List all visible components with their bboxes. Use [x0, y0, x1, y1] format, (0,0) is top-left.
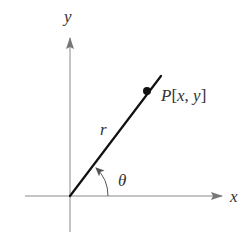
point-p-label: P[x, y]	[160, 86, 206, 105]
y-axis-label: y	[62, 7, 72, 26]
point-bracket-close: ]	[201, 86, 207, 105]
x-axis-label: x	[229, 187, 238, 206]
angle-arc	[96, 168, 108, 196]
point-p-marker	[143, 87, 151, 95]
point-comma: ,	[185, 86, 194, 105]
angle-label: θ	[118, 171, 126, 190]
polar-coordinate-diagram: y x P[x, y] r θ	[0, 0, 248, 244]
point-letter: P	[160, 86, 171, 105]
radius-label: r	[100, 120, 107, 139]
point-y: y	[191, 86, 201, 105]
